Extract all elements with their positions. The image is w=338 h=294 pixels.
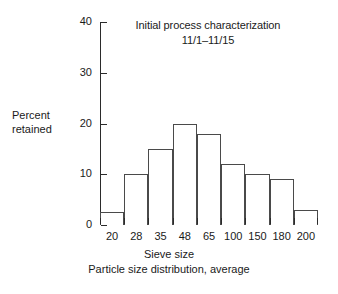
bar [173, 124, 197, 226]
x-tick-label: 35 [154, 230, 166, 242]
y-axis-label-line2: retained [12, 122, 84, 136]
bar [124, 174, 148, 225]
x-tick-label: 150 [248, 230, 266, 242]
x-tick [197, 218, 198, 224]
bar [100, 212, 124, 225]
y-tick-label: 10 [80, 167, 92, 179]
x-tick-label: 200 [297, 230, 315, 242]
x-tick [173, 218, 174, 224]
bar [245, 174, 269, 225]
x-tick-label: 20 [106, 230, 118, 242]
x-tick [294, 218, 295, 224]
x-tick [270, 218, 271, 224]
x-tick-label: 48 [179, 230, 191, 242]
plot-area: 010203040 [100, 22, 318, 225]
y-tick: 20 [101, 124, 107, 125]
x-tick-label: 100 [224, 230, 242, 242]
bars-container [100, 22, 318, 225]
bar [148, 149, 172, 225]
y-tick: 0 [101, 225, 107, 226]
x-tick-labels: 2028354865100150180200 [100, 230, 318, 244]
y-tick: 10 [101, 174, 107, 175]
x-axis-title: Sieve size [0, 247, 338, 262]
y-axis-label: Percent retained [12, 108, 84, 136]
chart-caption: Particle size distribution, average [0, 262, 338, 277]
y-tick: 30 [101, 73, 107, 74]
y-axis-label-line1: Percent [12, 108, 84, 122]
caption-block: Sieve size Particle size distribution, a… [0, 247, 338, 277]
x-tick-label: 28 [130, 230, 142, 242]
bar [221, 164, 245, 225]
bar [197, 134, 221, 225]
x-tick [100, 218, 101, 224]
x-tick [245, 218, 246, 224]
x-tick [317, 218, 318, 224]
bar [294, 210, 318, 225]
x-tick-label: 65 [203, 230, 215, 242]
x-tick-label: 180 [272, 230, 290, 242]
x-tick [124, 218, 125, 224]
y-tick: 40 [101, 22, 107, 23]
bar [270, 179, 294, 225]
histogram-figure: Initial process characterization 11/1–11… [0, 0, 338, 294]
y-tick-label: 20 [80, 117, 92, 129]
x-tick [148, 218, 149, 224]
y-tick-label: 40 [80, 15, 92, 27]
x-tick [221, 218, 222, 224]
y-tick-label: 0 [86, 218, 92, 230]
y-tick-label: 30 [80, 66, 92, 78]
